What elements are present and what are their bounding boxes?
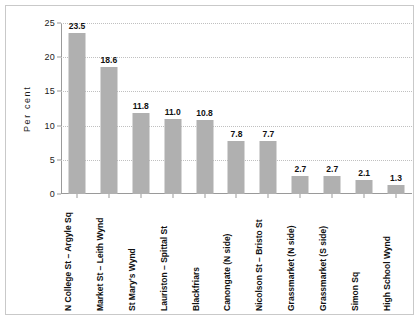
bar-value-label: 10.8 — [196, 108, 213, 118]
x-tick-mark — [396, 194, 397, 198]
x-label-slot: Blackfriars — [189, 205, 221, 311]
bar-value-label: 2.7 — [326, 164, 338, 174]
x-axis-label: Market St – Leith Wynd — [95, 218, 105, 311]
bar-value-label: 7.7 — [262, 129, 274, 139]
bar-value-label: 11.8 — [133, 101, 149, 111]
bar-slot: 18.6 — [93, 23, 125, 194]
x-label-slot: Simon Sq — [348, 205, 380, 311]
x-tick-mark — [332, 194, 333, 198]
bar — [260, 141, 277, 194]
y-tick-label: 25 — [44, 18, 55, 28]
x-axis-label: High School Wynd — [382, 236, 392, 311]
x-tick-mark — [140, 194, 141, 198]
x-axis-category-labels: N College St – Argyle SqMarket St – Leit… — [61, 199, 412, 311]
bar — [292, 176, 309, 194]
plot-area: 0510152025 23.518.611.811.010.87.87.72.7… — [61, 23, 412, 194]
x-label-slot: Market St – Leith Wynd — [93, 205, 125, 311]
bar-slot: 2.7 — [316, 23, 348, 194]
bar-value-label: 2.7 — [294, 164, 306, 174]
x-axis-label: Nicolson St – Bristo St — [254, 219, 264, 311]
x-axis-label: St Mary's Wynd — [127, 248, 137, 311]
bar-slot: 1.3 — [380, 23, 412, 194]
x-tick-mark — [236, 194, 237, 198]
chart-figure: Per cent 0510152025 23.518.611.811.010.8… — [5, 5, 414, 315]
x-tick-mark — [268, 194, 269, 198]
bar-value-label: 7.8 — [231, 129, 243, 139]
bar — [356, 180, 373, 194]
bar-slot: 11.0 — [157, 23, 189, 194]
bar-slot: 7.7 — [252, 23, 284, 194]
y-axis-title: Per cent — [20, 44, 34, 174]
x-tick-mark — [204, 194, 205, 198]
x-tick-mark — [364, 194, 365, 198]
bar-slot: 23.5 — [61, 23, 93, 194]
x-tick-mark — [108, 194, 109, 198]
bar-value-label: 18.6 — [101, 55, 118, 65]
bar-value-label: 23.5 — [69, 21, 86, 31]
y-tick-label: 10 — [44, 121, 55, 131]
x-label-slot: Nicolson St – Bristo St — [252, 205, 284, 311]
x-label-slot: Grassmarket (N side) — [284, 205, 316, 311]
x-axis-label: Canongate (N side) — [222, 234, 232, 311]
bar — [324, 176, 341, 194]
bar — [100, 67, 117, 194]
bar — [68, 33, 85, 194]
x-label-slot: Canongate (N side) — [221, 205, 253, 311]
bar-slot: 10.8 — [189, 23, 221, 194]
bar-slot: 2.7 — [284, 23, 316, 194]
x-axis-label: Grassmarket (N side) — [286, 225, 296, 311]
x-axis-label: Grassmarket (S side) — [318, 226, 328, 311]
bar — [196, 120, 213, 194]
bar-value-label: 11.0 — [165, 107, 181, 117]
y-tick-label: 15 — [44, 86, 55, 96]
x-label-slot: Grassmarket (S side) — [316, 205, 348, 311]
x-label-slot: N College St – Argyle Sq — [61, 205, 93, 311]
bar-slot: 11.8 — [125, 23, 157, 194]
bar-slot: 7.8 — [221, 23, 253, 194]
bar-value-label: 2.1 — [358, 168, 370, 178]
bar-series: 23.518.611.811.010.87.87.72.72.72.11.3 — [61, 23, 412, 194]
x-tick-mark — [300, 194, 301, 198]
x-axis-label: N College St – Argyle Sq — [63, 212, 73, 311]
bar — [164, 119, 181, 194]
y-tick-label: 20 — [44, 52, 55, 62]
bar — [388, 185, 405, 194]
bar — [132, 113, 149, 194]
y-tick-label: 0 — [50, 189, 55, 199]
x-axis-label: Simon Sq — [350, 272, 360, 311]
x-tick-mark — [76, 194, 77, 198]
x-axis-label: Blackfriars — [191, 267, 201, 311]
bar-value-label: 1.3 — [390, 173, 402, 183]
bar-slot: 2.1 — [348, 23, 380, 194]
x-axis-label: Lauriston – Spittal St — [159, 226, 169, 311]
x-label-slot: St Mary's Wynd — [125, 205, 157, 311]
x-label-slot: Lauriston – Spittal St — [157, 205, 189, 311]
x-tick-mark — [172, 194, 173, 198]
bar — [228, 141, 245, 194]
x-label-slot: High School Wynd — [380, 205, 412, 311]
y-tick-label: 5 — [50, 155, 55, 165]
